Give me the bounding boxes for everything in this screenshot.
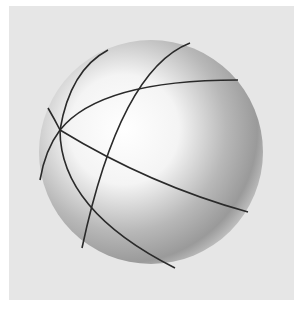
sphere-illustration [0, 0, 304, 311]
